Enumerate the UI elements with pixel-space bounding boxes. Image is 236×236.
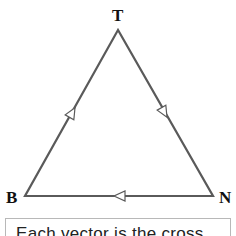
arrow-nb-icon bbox=[114, 191, 125, 201]
caption-box: Each vector is the cross bbox=[5, 218, 231, 236]
vector-triangle bbox=[0, 0, 236, 236]
vertex-label-n: N bbox=[219, 189, 231, 206]
vertex-label-b: B bbox=[6, 189, 17, 206]
caption-text: Each vector is the cross bbox=[16, 224, 204, 236]
vertex-label-t: T bbox=[112, 7, 123, 24]
arrow-bt-icon bbox=[65, 105, 79, 120]
